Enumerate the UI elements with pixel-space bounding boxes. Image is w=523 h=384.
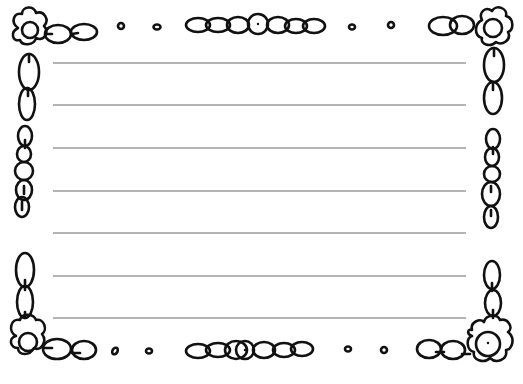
lined-paper [0,0,523,384]
chain-right-icon [482,129,500,228]
flower-bottom-left-icon [11,253,152,359]
garland-top-icon [186,14,394,34]
paper-artwork [0,0,523,384]
flower-top-left-icon [13,7,161,120]
chain-left-icon [15,126,33,217]
garland-bottom-icon [186,341,387,359]
flower-top-right-icon [429,7,512,114]
ruled-lines [53,63,466,318]
